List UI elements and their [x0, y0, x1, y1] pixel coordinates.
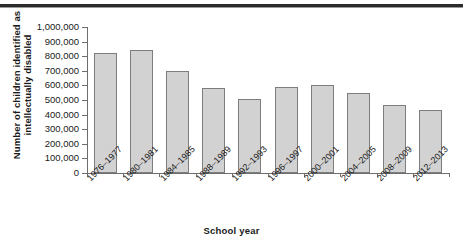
x-axis-title: School year [0, 225, 463, 236]
y-axis-title-line-2: intellectually disabled [22, 5, 33, 165]
y-tick-label: 300,000 [45, 124, 79, 134]
y-tick-label: 900,000 [45, 37, 79, 47]
y-tick-label: 600,000 [45, 81, 79, 91]
y-tick-label: 800,000 [45, 51, 79, 61]
y-tick-label: 700,000 [45, 66, 79, 76]
bar-chart: Number of children identified as intelle… [0, 14, 463, 251]
figure-container: Number of children identified as intelle… [0, 0, 463, 251]
y-tick-label: 400,000 [45, 110, 79, 120]
y-tick-label: 500,000 [45, 95, 79, 105]
y-axis-title-line-1: Number of children identified as [11, 5, 22, 165]
y-tick-label: 0 [74, 168, 79, 178]
y-axis-title: Number of children identified as intelle… [11, 5, 33, 165]
y-tick-label: 1,000,000 [37, 22, 79, 32]
y-tick-label: 200,000 [45, 139, 79, 149]
x-tick [449, 173, 450, 177]
page-top-rule [0, 4, 463, 7]
y-tick-label: 100,000 [45, 154, 79, 164]
